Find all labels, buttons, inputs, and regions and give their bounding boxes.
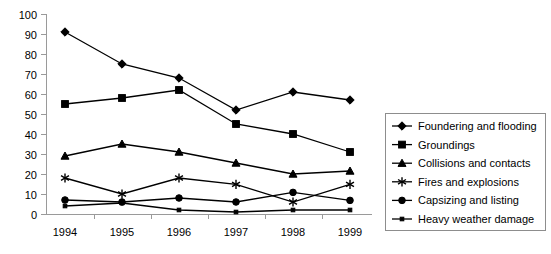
data-point-circle	[347, 197, 354, 204]
y-tick-label: 0	[31, 209, 37, 221]
data-point-dash	[291, 208, 295, 212]
y-tick-label: 100	[19, 9, 37, 21]
x-tick-label: 1998	[281, 226, 305, 238]
y-tick-label: 60	[25, 89, 37, 101]
data-point-dash	[63, 204, 67, 208]
line-chart: 0102030405060708090100 19941995199619971…	[0, 0, 551, 254]
y-tick-label: 20	[25, 169, 37, 181]
data-point-circle	[399, 197, 406, 204]
legend-item-label: Heavy weather damage	[418, 213, 534, 225]
legend-item-label: Capsizing and listing	[418, 194, 519, 206]
data-point-square	[233, 121, 240, 128]
legend-item-label: Groundings	[418, 139, 475, 151]
data-point-dash	[234, 210, 238, 214]
y-tick-label: 30	[25, 149, 37, 161]
chart-canvas: 0102030405060708090100 19941995199619971…	[0, 0, 551, 254]
data-point-square	[399, 141, 406, 148]
data-point-dash	[177, 208, 181, 212]
data-point-square	[62, 101, 69, 108]
data-point-dash	[120, 201, 124, 205]
x-tick-label: 1994	[53, 226, 77, 238]
data-point-dash	[348, 208, 352, 212]
y-tick-label: 80	[25, 49, 37, 61]
legend-item-label: Collisions and contacts	[418, 157, 531, 169]
y-tick-label: 10	[25, 189, 37, 201]
x-tick-label: 1995	[110, 226, 134, 238]
data-point-circle	[233, 199, 240, 206]
data-point-square	[119, 95, 126, 102]
data-point-circle	[290, 189, 297, 196]
data-point-circle	[176, 195, 183, 202]
x-tick-label: 1999	[338, 226, 362, 238]
legend-item-label: Foundering and flooding	[418, 120, 537, 132]
y-tick-label: 50	[25, 109, 37, 121]
data-point-circle	[62, 197, 69, 204]
x-tick-label: 1997	[224, 226, 248, 238]
y-tick-label: 70	[25, 69, 37, 81]
data-point-dash	[400, 217, 404, 221]
legend-item-label: Fires and explosions	[418, 176, 519, 188]
data-point-square	[347, 149, 354, 156]
x-tick-label: 1996	[167, 226, 191, 238]
y-tick-label: 40	[25, 129, 37, 141]
data-point-square	[176, 87, 183, 94]
data-point-square	[290, 131, 297, 138]
y-tick-label: 90	[25, 29, 37, 41]
